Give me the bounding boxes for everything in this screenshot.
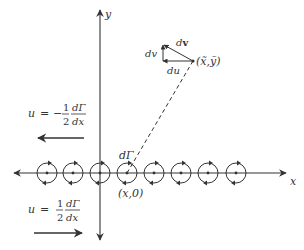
dvec-label: dv — [176, 37, 189, 48]
lower-eq: = — [40, 203, 49, 216]
upper-deriv-den: dx — [72, 116, 84, 127]
du-label: du — [167, 65, 180, 76]
upper-velocity-expression: u = − 1 2 dΓ dx — [28, 102, 86, 138]
x-axis-label: x — [290, 175, 297, 188]
upper-u: u — [28, 107, 35, 120]
target-point-dot — [191, 59, 194, 62]
upper-sign: − — [53, 107, 62, 120]
lower-deriv-den: dx — [66, 212, 78, 223]
y-axis-label: y — [104, 8, 112, 21]
d-gamma-label: dΓ — [119, 149, 134, 162]
dv-label: dv — [145, 48, 157, 59]
lower-frac-num: 1 — [57, 198, 63, 209]
velocity-triangle: dv du dv (x̃,ỹ) — [145, 37, 221, 76]
target-point-label: (x̃,ỹ) — [196, 55, 221, 68]
upper-frac-num: 1 — [63, 102, 69, 113]
source-point-label: (x,0) — [118, 187, 143, 200]
upper-frac-den: 2 — [63, 116, 69, 127]
lower-deriv-num: dΓ — [66, 198, 80, 209]
lower-velocity-expression: u = 1 2 dΓ dx — [28, 198, 82, 233]
upper-deriv-num: dΓ — [72, 102, 86, 113]
influence-line — [127, 61, 193, 173]
lower-frac-den: 2 — [57, 212, 63, 223]
lower-u: u — [28, 203, 35, 216]
upper-eq: = — [40, 107, 49, 120]
vortex-sheet-diagram: x y dΓ (x,0) dv du dv (x̃,ỹ) u = − 1 2 d… — [0, 0, 304, 250]
